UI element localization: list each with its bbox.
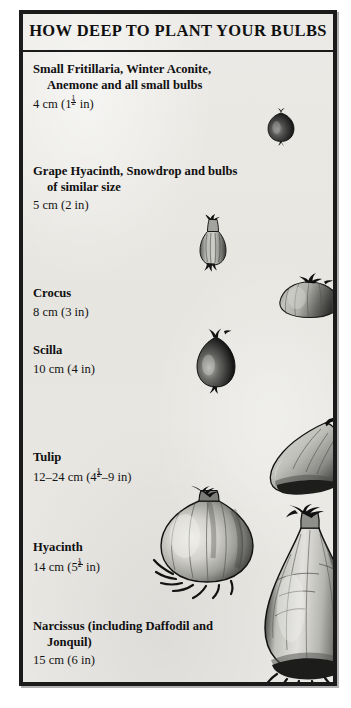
grape-hyacinth-bulb-illustration	[193, 212, 233, 274]
entry-hyacinth: Hyacinth 14 cm (512 in)	[33, 540, 100, 574]
entry-depth-suffix: in)	[83, 559, 100, 573]
entry-small-fritillaria: Small Fritillaria, Winter Aconite, Anemo…	[33, 62, 211, 112]
entry-depth: 5 cm (2 in)	[33, 197, 237, 213]
entry-name: Small Fritillaria, Winter Aconite, Anemo…	[33, 62, 211, 93]
entry-name-line2: of similar size	[33, 180, 237, 196]
entry-scilla: Scilla 10 cm (4 in)	[33, 343, 95, 377]
entry-grape-hyacinth: Grape Hyacinth, Snowdrop and bulbs of si…	[33, 164, 237, 213]
bulb-planting-chart-panel: HOW DEEP TO PLANT YOUR BULBS	[19, 10, 337, 686]
title-divider	[23, 50, 333, 52]
crocus-corm-illustration	[275, 272, 337, 324]
entry-name: Crocus	[33, 286, 89, 302]
entry-depth: 8 cm (3 in)	[33, 304, 89, 320]
entry-name-line1: Scilla	[33, 343, 62, 357]
scilla-bulb-illustration	[191, 327, 241, 395]
entry-depth-prefix: 8 cm (3 in)	[33, 305, 89, 319]
tulip-bulb-illustration	[259, 415, 337, 501]
entry-depth: 4 cm (112 in)	[33, 95, 211, 112]
entry-name-line2: Anemone and all small bulbs	[33, 78, 211, 94]
poster-page: HOW DEEP TO PLANT YOUR BULBS	[0, 0, 351, 708]
entry-depth: 14 cm (512 in)	[33, 558, 100, 575]
page-title: HOW DEEP TO PLANT YOUR BULBS	[23, 21, 333, 41]
entry-narcissus: Narcissus (including Daffodil and Jonqui…	[33, 619, 213, 668]
entry-name-line1: Grape Hyacinth, Snowdrop and bulbs	[33, 164, 237, 178]
entry-depth: 12–24 cm (412–9 in)	[33, 468, 131, 485]
entry-depth: 10 cm (4 in)	[33, 361, 95, 377]
narcissus-bulb-illustration	[257, 504, 337, 686]
entry-name: Scilla	[33, 343, 95, 359]
entry-depth-fraction: 12	[97, 468, 102, 481]
entry-name-line1: Hyacinth	[33, 540, 83, 554]
entry-depth-prefix: 10 cm (4 in)	[33, 362, 95, 376]
entry-name: Hyacinth	[33, 540, 100, 556]
entry-tulip: Tulip 12–24 cm (412–9 in)	[33, 450, 131, 484]
title-band: HOW DEEP TO PLANT YOUR BULBS	[23, 14, 333, 50]
entry-depth-fraction: 12	[78, 558, 83, 571]
fraction-denominator: 2	[71, 99, 75, 106]
entry-depth: 15 cm (6 in)	[33, 652, 213, 668]
entry-depth-fraction: 12	[71, 95, 76, 108]
hyacinth-bulb-illustration	[149, 486, 267, 602]
entry-depth-prefix: 15 cm (6 in)	[33, 653, 95, 667]
entry-name-line1: Small Fritillaria, Winter Aconite,	[33, 62, 211, 76]
fraction-denominator: 2	[78, 561, 82, 568]
entry-crocus: Crocus 8 cm (3 in)	[33, 286, 89, 320]
small-fritillaria-bulb-illustration	[264, 106, 298, 148]
entry-depth-prefix: 12–24 cm (4	[33, 469, 97, 483]
fraction-denominator: 2	[97, 471, 101, 478]
entry-depth-suffix: –9 in)	[102, 469, 132, 483]
entry-name-line1: Narcissus (including Daffodil and	[33, 619, 213, 633]
entry-name: Narcissus (including Daffodil and Jonqui…	[33, 619, 213, 650]
entry-name: Grape Hyacinth, Snowdrop and bulbs of si…	[33, 164, 237, 195]
entry-name-line1: Crocus	[33, 286, 71, 300]
entry-depth-prefix: 4 cm (1	[33, 97, 71, 111]
entry-depth-suffix: in)	[76, 97, 93, 111]
entry-depth-prefix: 14 cm (5	[33, 559, 78, 573]
entry-name-line2: Jonquil)	[33, 635, 213, 651]
entry-name: Tulip	[33, 450, 131, 466]
entry-depth-prefix: 5 cm (2 in)	[33, 198, 89, 212]
panel-content: HOW DEEP TO PLANT YOUR BULBS	[23, 14, 333, 682]
entry-name-line1: Tulip	[33, 450, 61, 464]
